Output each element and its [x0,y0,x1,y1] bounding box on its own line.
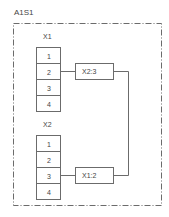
terminal-x2-4[interactable]: 4 [37,184,61,200]
terminal-x1-4[interactable]: 4 [37,96,61,112]
terminal-x2-2[interactable]: 2 [37,152,61,168]
wire-cross-link [114,72,129,176]
ref-box-x2-3[interactable]: X2:3 [76,64,113,79]
ref-box-x1-2[interactable]: X1:2 [76,168,113,183]
terminal-x2-1[interactable]: 1 [37,136,61,152]
diagram-canvas [0,0,169,217]
terminal-x1-1[interactable]: 1 [37,48,61,64]
terminal-x2-3[interactable]: 3 [37,168,61,184]
strip-x1-label: X1 [43,33,52,40]
assembly-title: A1S1 [14,8,34,17]
terminal-x1-2[interactable]: 2 [37,64,61,80]
terminal-x1-3[interactable]: 3 [37,80,61,96]
strip-x2-label: X2 [43,121,52,128]
